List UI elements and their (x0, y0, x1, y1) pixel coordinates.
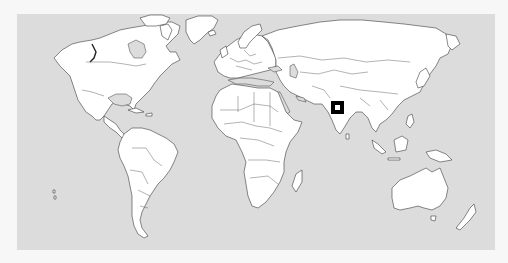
sri-lanka (346, 134, 349, 139)
central-america (104, 116, 126, 138)
location-marker[interactable] (331, 101, 344, 114)
africa (212, 84, 302, 208)
tasmania (431, 216, 436, 221)
java (388, 158, 400, 160)
south-america (118, 128, 178, 238)
new-guinea (426, 150, 452, 162)
sumatra (372, 140, 386, 154)
philippines (406, 114, 414, 128)
hispaniola (146, 113, 152, 116)
borneo (394, 136, 408, 152)
australia (392, 168, 448, 210)
marker-center (335, 105, 340, 110)
world-map[interactable] (0, 0, 508, 263)
madagascar (292, 170, 302, 192)
cuba (128, 108, 144, 113)
hawaii (53, 190, 56, 199)
new-zealand (456, 204, 476, 230)
north-america (54, 22, 180, 120)
